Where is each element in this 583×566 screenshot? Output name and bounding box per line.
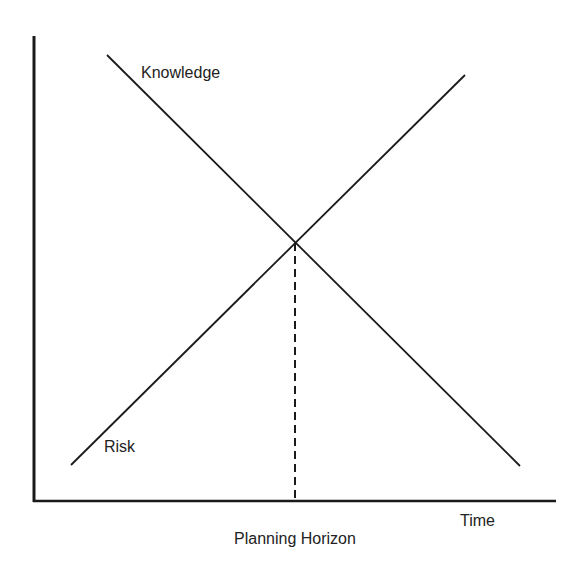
planning-horizon-label: Planning Horizon	[234, 531, 356, 547]
x-axis-label: Time	[460, 513, 495, 529]
risk-line	[71, 75, 465, 465]
knowledge-risk-diagram	[0, 0, 583, 566]
risk-label: Risk	[104, 439, 135, 455]
knowledge-line	[107, 55, 520, 466]
knowledge-label: Knowledge	[141, 65, 220, 81]
